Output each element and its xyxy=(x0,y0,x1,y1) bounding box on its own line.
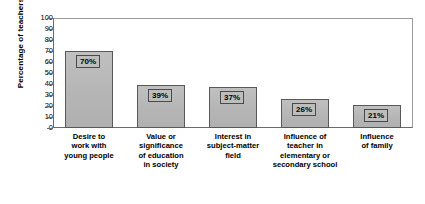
x-category-label: Desire to work with young people xyxy=(53,132,125,160)
bar-value-label: 21% xyxy=(364,109,388,122)
y-tick-mark xyxy=(47,128,53,129)
bar-value-label: 26% xyxy=(292,103,316,116)
bar-value-label: 70% xyxy=(76,55,100,68)
x-category-label: Influence of family xyxy=(341,132,413,151)
y-axis-title-container: Percentage of teachers xyxy=(2,17,18,131)
bar-chart: Percentage of teachers 10090807060504030… xyxy=(0,0,425,204)
bar-value-label: 39% xyxy=(148,89,172,102)
bar-value-label: 37% xyxy=(220,91,244,104)
x-category-label: Influence of teacher in elementary or se… xyxy=(269,132,341,170)
x-category-label: Interest in subject-matter field xyxy=(197,132,269,160)
x-category-label: Value or significance of education in so… xyxy=(125,132,197,170)
